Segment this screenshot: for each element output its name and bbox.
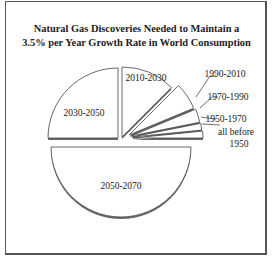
slice-label: all before1950 (218, 127, 254, 149)
slice-label: 1970-1990 (207, 92, 248, 102)
slice-label: 2030-2050 (63, 108, 104, 118)
slice-label: 1950-1970 (205, 114, 246, 124)
leader-line (202, 124, 220, 125)
pie-chart: 2050-20702030-20502010-20301990-20101970… (0, 0, 273, 261)
pie-slice-2030-2050 (48, 68, 118, 138)
pie-slices (48, 67, 203, 219)
slice-label: 1990-2010 (204, 69, 245, 79)
slice-label: 2010-2030 (125, 73, 166, 83)
slice-label: 2050-2070 (100, 181, 141, 191)
